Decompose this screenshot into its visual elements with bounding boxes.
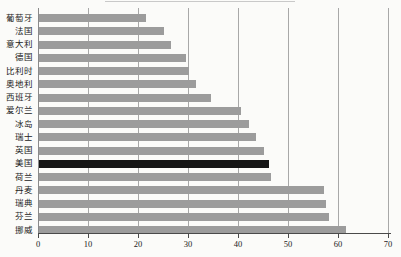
y-axis-label: 芬兰 [0,212,33,221]
bar-7 [39,107,242,115]
x-axis-tick-label: 30 [177,239,199,249]
y-axis-label: 法国 [0,27,33,36]
y-axis-label: 荷兰 [0,173,33,182]
x-axis-tick [38,234,39,238]
y-axis-label: 瑞士 [0,133,33,142]
x-axis-tick-label: 10 [77,239,99,249]
gridline [388,8,389,233]
x-axis-tick-label: 0 [27,239,49,249]
bar-2 [39,41,172,49]
bar-10 [39,147,264,155]
cropped-text-remnant-line [105,1,295,2]
x-axis-tick-label: 20 [127,239,149,249]
x-axis-tick [388,234,389,238]
y-axis-label: 丹麦 [0,186,33,195]
horizontal-bar-chart: 葡萄牙法国意大利德国比利时奥地利西班牙爱尔兰冰岛瑞士英国美国荷兰丹麦瑞典芬兰挪威… [0,0,401,257]
y-axis-label: 爱尔兰 [0,106,33,115]
y-axis-label: 美国 [0,159,33,168]
y-axis-label: 挪威 [0,226,33,235]
bar-13 [39,186,324,194]
gridline [338,8,339,233]
x-axis-tick-label: 60 [327,239,349,249]
bar-15 [39,213,329,221]
bar-8 [39,120,249,128]
x-axis-tick [188,234,189,238]
y-axis-label: 德国 [0,53,33,62]
bar-11-highlight [39,160,269,168]
x-axis-tick [238,234,239,238]
x-axis-tick-label: 70 [377,239,399,249]
x-axis-tick [138,234,139,238]
bar-5 [39,80,197,88]
bar-4 [39,67,189,75]
x-axis-tick-label: 40 [227,239,249,249]
y-axis-label: 西班牙 [0,93,33,102]
y-axis-label: 瑞典 [0,199,33,208]
y-axis-label: 意大利 [0,40,33,49]
x-axis-tick [288,234,289,238]
bar-14 [39,200,327,208]
bar-1 [39,27,164,35]
y-axis-label: 葡萄牙 [0,14,33,23]
y-axis-label: 奥地利 [0,80,33,89]
x-axis-tick [88,234,89,238]
bar-0 [39,14,147,22]
bar-9 [39,133,257,141]
y-axis-label: 英国 [0,146,33,155]
bar-6 [39,94,212,102]
x-axis-tick-label: 50 [277,239,299,249]
y-axis-label: 冰岛 [0,120,33,129]
y-axis-label: 比利时 [0,67,33,76]
x-axis-tick [338,234,339,238]
bar-12 [39,173,272,181]
bar-3 [39,54,187,62]
